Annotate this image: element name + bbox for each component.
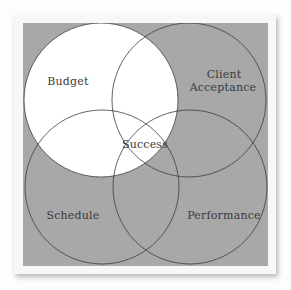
venn-diagram-figure: Budget Client Acceptance Schedule Perfor… — [0, 0, 291, 290]
budget-label: Budget — [47, 75, 89, 88]
budget-circle-fill — [24, 23, 178, 177]
acceptance-label: Acceptance — [189, 81, 257, 94]
client-label: Client — [207, 68, 242, 81]
success-label: Success — [122, 138, 168, 151]
venn-diagram: Budget Client Acceptance Schedule Perfor… — [0, 0, 291, 290]
performance-label: Performance — [187, 209, 261, 222]
schedule-label: Schedule — [46, 209, 99, 222]
